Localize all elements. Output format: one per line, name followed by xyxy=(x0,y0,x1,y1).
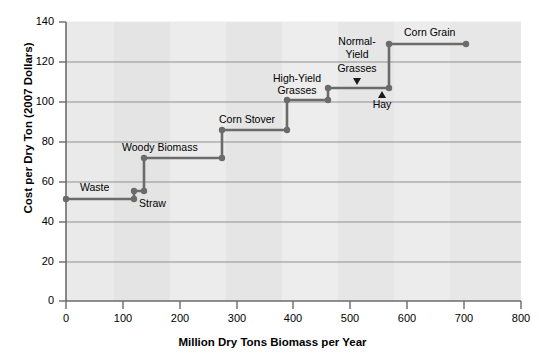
annotation-waste: Waste xyxy=(80,182,109,194)
marker-woody-biomass-start xyxy=(141,155,147,161)
annotation-straw: Straw xyxy=(139,198,166,210)
x-tick-700: 700 xyxy=(444,312,484,324)
x-tick-600: 600 xyxy=(387,312,427,324)
annotation-normal-yield-grasses-line1: Normal- xyxy=(327,36,387,48)
marker-straw-start xyxy=(131,188,137,194)
annotation-normal-yield-grasses-line2: Yield xyxy=(327,49,387,61)
marker-corn-stover-end xyxy=(284,127,290,133)
y-tick-20: 20 xyxy=(20,255,54,267)
hay-pointer-icon xyxy=(378,91,386,98)
x-tick-500: 500 xyxy=(330,312,370,324)
annotation-high-yield-grasses-line2: Grasses xyxy=(264,85,330,97)
annotation-high-yield-grasses-line1: High-Yield xyxy=(264,73,330,85)
marker-hay-end xyxy=(386,85,392,91)
marker-high-yield-grasses-start xyxy=(284,97,290,103)
x-axis-ticks xyxy=(66,301,521,309)
x-tick-800: 800 xyxy=(501,312,541,324)
x-tick-0: 0 xyxy=(46,312,86,324)
marker-waste-start xyxy=(63,196,69,202)
chart-figure: 140 120 100 80 60 40 20 0 0 100 200 300 … xyxy=(0,0,545,363)
x-tick-200: 200 xyxy=(160,312,200,324)
annotation-corn-grain: Corn Grain xyxy=(404,27,455,39)
annotation-corn-stover: Corn Stover xyxy=(219,114,275,126)
y-axis-ticks xyxy=(59,22,66,301)
marker-corn-grain-end xyxy=(463,41,469,47)
annotation-hay: Hay xyxy=(362,99,402,111)
marker-waste-end xyxy=(131,196,137,202)
marker-straw-end xyxy=(141,188,147,194)
annotation-normal-yield-grasses-line3: Grasses xyxy=(327,63,387,75)
normal-yield-grasses-pointer-icon xyxy=(353,78,361,85)
axis-lines xyxy=(66,22,521,301)
marker-high-yield-grasses-end xyxy=(325,97,331,103)
marker-corn-stover-start xyxy=(219,127,225,133)
y-axis-title: Cost per Dry Ton (2007 Dollars) xyxy=(22,8,34,248)
x-tick-300: 300 xyxy=(217,312,257,324)
annotation-woody-biomass: Woody Biomass xyxy=(122,142,198,154)
marker-woody-biomass-end xyxy=(219,155,225,161)
x-tick-400: 400 xyxy=(273,312,313,324)
x-axis-title: Million Dry Tons Biomass per Year xyxy=(0,336,545,348)
y-tick-0: 0 xyxy=(20,294,54,306)
x-tick-100: 100 xyxy=(103,312,143,324)
